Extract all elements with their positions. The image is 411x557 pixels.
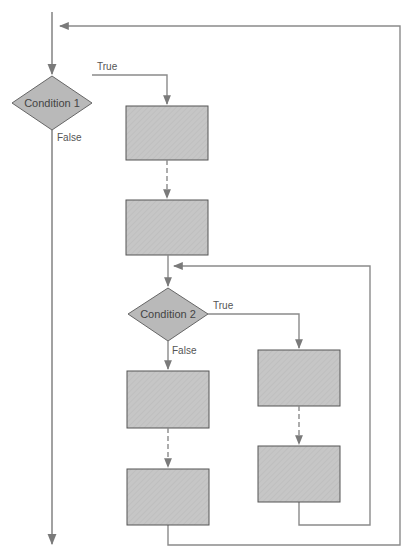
condition-2-label: Condition 2 — [140, 308, 196, 320]
process-box-a — [126, 106, 208, 160]
process-box-b — [126, 200, 208, 255]
decision-condition-1: Condition 1 — [12, 76, 92, 130]
condition-1-label: Condition 1 — [24, 97, 80, 109]
process-box-d — [127, 469, 209, 525]
decision-condition-2: Condition 2 — [128, 288, 208, 341]
process-box-e — [258, 350, 340, 406]
true-1-connector — [92, 75, 167, 104]
condition-2-false-label: False — [172, 345, 197, 356]
true-2-connector — [208, 314, 299, 348]
condition-1-true-label: True — [97, 61, 118, 72]
outer-loop-connector — [60, 26, 400, 545]
flowchart-canvas: Condition 1 True False Condition 2 True … — [0, 0, 411, 557]
process-box-f — [258, 446, 340, 502]
process-box-c — [127, 371, 209, 428]
condition-1-false-label: False — [57, 132, 82, 143]
condition-2-true-label: True — [213, 300, 234, 311]
